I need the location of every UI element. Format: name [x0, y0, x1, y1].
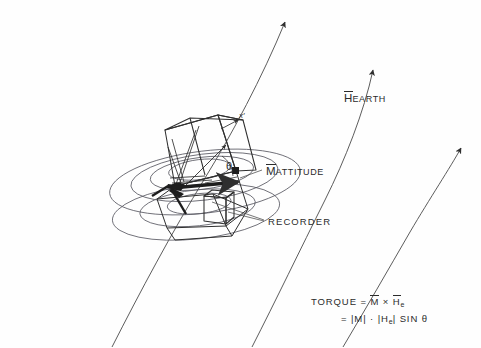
m-attitude-symbol: M	[266, 165, 276, 177]
equation-2-prefix: = |M| · |H	[341, 313, 389, 324]
equation-1-prefix: TORQUE =	[311, 296, 370, 307]
dipole-ring-inner	[167, 156, 231, 183]
equation-2-suffix: | SIN θ	[393, 313, 428, 324]
equation-line-2: = |M| · |He| SIN θ	[341, 313, 428, 325]
dipole-ring-outer	[106, 140, 304, 225]
equation-1-h: H	[393, 296, 401, 307]
label-m-attitude: MATTITUDE	[266, 161, 324, 179]
figure-canvas: HEARTH MATTITUDE RECORDER θ x′ TORQUE = …	[0, 0, 481, 348]
satellite-face-top	[165, 115, 243, 130]
h-earth-symbol: H	[344, 92, 353, 104]
label-recorder: RECORDER	[268, 216, 331, 227]
h-earth-subscript: EARTH	[353, 94, 386, 104]
equation-1-operator: ×	[379, 296, 393, 307]
label-theta: θ	[226, 160, 232, 172]
label-h-earth: HEARTH	[344, 88, 386, 106]
axis-prime-marker	[221, 120, 238, 129]
label-axis-prime: x′	[239, 111, 245, 120]
technical-diagram	[0, 0, 481, 348]
dipole-field-rings	[106, 140, 304, 225]
equation-1-h-subscript: e	[401, 301, 405, 308]
earth-field-lines	[112, 22, 461, 347]
m-attitude-subscript: ATTITUDE	[276, 167, 324, 177]
equation-line-1: TORQUE = M × He	[311, 296, 404, 308]
recorder-box	[204, 190, 234, 224]
equation-1-m: M	[370, 296, 379, 307]
leader-m-attitude	[240, 170, 262, 178]
